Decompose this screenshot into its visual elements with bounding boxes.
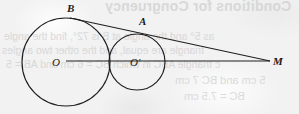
common-tangent-line bbox=[70, 18, 270, 61]
center-label-o: O bbox=[52, 57, 60, 68]
center-label-o-prime: O' bbox=[130, 57, 140, 68]
geometry-drawing bbox=[0, 0, 299, 114]
point-label-m: M bbox=[273, 56, 283, 67]
point-label-a: A bbox=[139, 16, 146, 27]
geometry-figure: Conditions for Congruency as 5° and the … bbox=[0, 0, 299, 114]
point-label-b: B bbox=[67, 3, 74, 14]
circle-large bbox=[22, 18, 110, 106]
